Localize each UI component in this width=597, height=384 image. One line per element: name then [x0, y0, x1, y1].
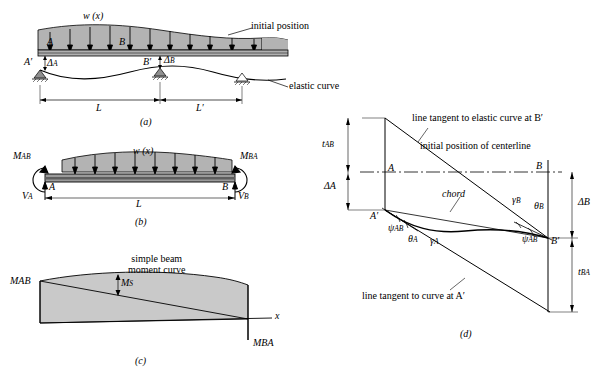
M-AB-text: MAB [13, 150, 31, 161]
simple-beam-line2: moment curve [128, 264, 185, 275]
reaction-V-B [233, 182, 238, 200]
label-span-Lp: L′ [196, 102, 204, 113]
panel-b: w (x) MAB MBA VA VB A B L (b) [0, 128, 300, 233]
delta-B-text: ΔB [164, 54, 174, 65]
label-point-A-prime: A′ [24, 56, 32, 67]
label-t-AB: tAB [322, 138, 334, 149]
leader-tangent-A [450, 278, 465, 290]
label-gamma-B: γB [512, 194, 521, 205]
delta-A-text-d: ΔA [324, 180, 336, 191]
label-point-A: A [47, 36, 53, 47]
label-M-BA-c: MBA [253, 337, 274, 348]
label-load-b: w (x) [133, 145, 153, 156]
gamma-B-text: γB [512, 194, 521, 205]
moment-curve-region [40, 272, 248, 323]
M-AB-text-c: MAB [10, 275, 31, 286]
label-delta-A-d: ΔA [324, 180, 336, 191]
V-B-text: VB [238, 190, 249, 201]
label-initial-position: initial position [251, 20, 309, 31]
label-delta-A: ΔA [47, 57, 57, 68]
support-B-prime [152, 68, 168, 80]
M-BA-text: MBA [240, 150, 258, 161]
label-psi-AB-bottom: ψAB [522, 233, 537, 244]
delta-A-dimension-d [346, 172, 385, 210]
label-V-B: VB [238, 190, 249, 201]
theta-B-text: θB [534, 200, 544, 211]
label-point-B: B [119, 36, 125, 47]
caption-b: (b) [135, 216, 147, 227]
psi-AB-bottom-text: ψAB [522, 233, 537, 244]
caption-d: (d) [460, 328, 472, 339]
delta-A-text: ΔA [47, 57, 57, 68]
label-span-L-b: L [136, 198, 142, 209]
label-initial-centerline: initial position of centerline [420, 140, 531, 151]
label-tangent-B-prime: line tangent to elastic curve at B′ [412, 112, 543, 123]
t-AB-dimension [346, 118, 385, 172]
reaction-V-A [43, 182, 48, 200]
label-M-AB-c: MAB [10, 275, 31, 286]
label-t-BA: tBA [578, 266, 590, 277]
t-AB-text: tAB [322, 138, 334, 149]
label-point-A-prime-d: A′ [370, 210, 378, 221]
t-BA-dimension [548, 238, 578, 312]
theta-A-text: θA [408, 233, 418, 244]
beam-b-web [45, 177, 235, 180]
label-point-B-prime-d: B′ [551, 235, 559, 246]
M-BA-text-c: MBA [253, 337, 274, 348]
leader-initial-position [228, 28, 252, 35]
label-simple-beam-moment-curve: simple beam moment curve [128, 253, 185, 275]
panel-b-drawing [0, 128, 300, 233]
leader-elastic-curve [268, 80, 288, 87]
label-point-A-b: A [49, 181, 55, 192]
label-theta-B: θB [534, 200, 544, 211]
delta-B-dimension-d [570, 172, 574, 238]
delta-B-text-d: ΔB [578, 196, 590, 207]
label-M-AB-b: MAB [13, 150, 31, 161]
V-A-text: VA [22, 190, 33, 201]
label-M-BA-b: MBA [240, 150, 258, 161]
label-point-A-d: A [388, 162, 394, 173]
tangent-line-at-B-prime [385, 118, 548, 238]
load-right-fill [262, 38, 288, 50]
M-S-text: MS [121, 277, 133, 288]
caption-c: (c) [135, 355, 146, 366]
panel-a: w (x) A B A′ B′ ΔA ΔB initial position e… [0, 0, 300, 130]
label-load-a: w (x) [83, 10, 103, 21]
label-elastic-curve: elastic curve [289, 80, 339, 91]
gamma-A-text: γA [430, 235, 439, 246]
label-point-B-b: B [222, 181, 228, 192]
t-BA-text: tBA [578, 266, 590, 277]
label-psi-AB-top: ψAB [388, 222, 403, 233]
label-point-B-prime: B′ [143, 56, 151, 67]
label-delta-B-d: ΔB [578, 196, 590, 207]
label-V-A: VA [22, 190, 33, 201]
label-span-L: L [96, 102, 102, 113]
simple-beam-line1: simple beam [131, 253, 182, 264]
caption-a: (a) [140, 116, 152, 127]
span-dimensions [40, 82, 242, 104]
label-tangent-A-prime: line tangent to curve at A′ [362, 290, 465, 301]
label-point-B-d: B [536, 160, 542, 171]
psi-AB-top-text: ψAB [388, 222, 403, 233]
label-gamma-A: γA [430, 235, 439, 246]
leader-chord [450, 197, 460, 212]
label-theta-A: θA [408, 233, 418, 244]
label-delta-B: ΔB [164, 54, 174, 65]
label-chord: chord [442, 188, 465, 199]
panel-d: line tangent to elastic curve at B′ init… [300, 100, 597, 384]
label-M-S: MS [121, 277, 133, 288]
label-axis-x: x [275, 310, 279, 321]
panel-c: simple beam moment curve MAB MS MBA x (c… [0, 245, 300, 380]
